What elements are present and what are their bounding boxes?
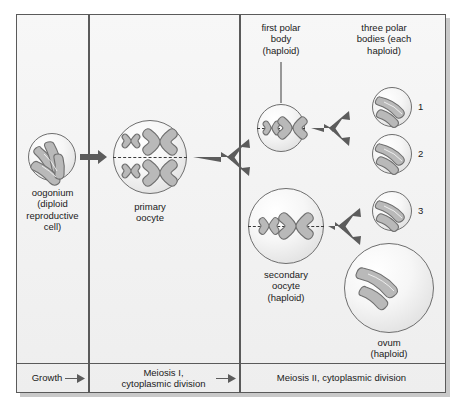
stage-arrows-layer (17, 364, 447, 393)
stage-arrow-1 (65, 374, 85, 383)
oogenesis-figure: oogonium (diploid reproductive cell) pri… (0, 0, 463, 404)
stage-bar: Growth Meiosis I, cytoplasmic division M… (17, 363, 445, 392)
figure-frame: oogonium (diploid reproductive cell) pri… (16, 14, 446, 393)
branch-polar-3-ovum-layer (17, 15, 447, 394)
branch-arrow-polar-body-3-and-ovum (328, 208, 361, 245)
stage-arrow-2 (216, 374, 236, 383)
